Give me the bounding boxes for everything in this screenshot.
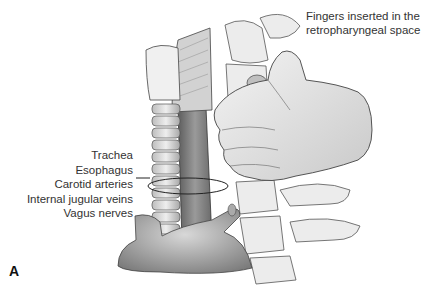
- trachea: [152, 104, 180, 234]
- larynx: [146, 45, 180, 100]
- structure-labels: Trachea Esophagus Carotid arteries Inter…: [27, 148, 133, 221]
- label-vagus-nerves: Vagus nerves: [27, 206, 133, 221]
- panel-label: A: [9, 263, 19, 279]
- caption-line-1: Fingers inserted in the: [306, 9, 426, 23]
- label-trachea: Trachea: [27, 148, 133, 163]
- label-esophagus: Esophagus: [27, 163, 133, 178]
- label-carotid-arteries: Carotid arteries: [27, 177, 133, 192]
- retropharyngeal-caption: Fingers inserted in the retropharyngeal …: [306, 9, 426, 37]
- anatomical-illustration: [0, 0, 427, 294]
- caption-line-2: retropharyngeal space: [306, 23, 426, 37]
- label-internal-jugular-veins: Internal jugular veins: [27, 192, 133, 207]
